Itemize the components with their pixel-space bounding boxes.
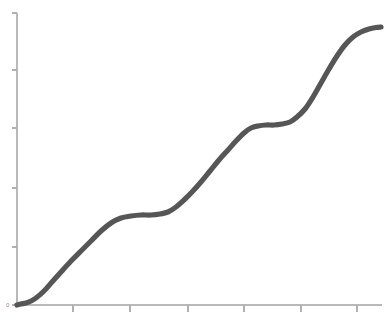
- plot-svg: 0: [0, 0, 388, 329]
- y-axis-tick-label-0: 0: [6, 302, 10, 308]
- chart-canvas: 0: [0, 0, 388, 329]
- x-axis-tick-group: [73, 305, 357, 312]
- y-axis-tick-group: [12, 13, 17, 305]
- data-curve-line: [17, 27, 381, 305]
